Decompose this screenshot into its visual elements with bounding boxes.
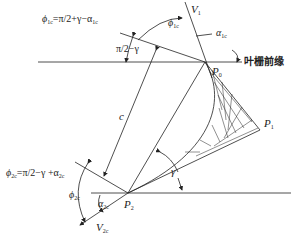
p0-label: P0: [212, 66, 222, 78]
phi2c-formula: ϕ2c=π/2−γ +α2c: [6, 168, 64, 179]
alpha1c-arc: [232, 50, 238, 62]
diagram-lines: [0, 0, 291, 239]
p1-label: P1: [264, 118, 274, 130]
phi1c-label: ϕ1c: [168, 18, 179, 29]
pi2-minus-gamma-label: π/2−γ: [116, 44, 139, 54]
normal-line-bottom: [75, 162, 128, 193]
chord-line: [128, 62, 205, 193]
blade-outer-envelope: [128, 62, 260, 193]
phi1c-formula: ϕ1c=π/2+γ−α1c: [42, 14, 98, 25]
gamma-label: γ: [171, 166, 175, 177]
v2c-label: V2c: [96, 222, 108, 234]
alpha1c-label: α1c: [216, 28, 227, 39]
chord-c-label: c: [119, 111, 124, 122]
phi2c-label: ϕ2c: [69, 190, 80, 201]
chord-dimension-c: [104, 50, 156, 176]
alpha2c-label: α2c: [98, 199, 109, 210]
v1-label: V1: [191, 4, 201, 16]
p2-label: P2: [124, 199, 134, 211]
alpha1c-leader: [196, 34, 212, 36]
cascade-leading-edge-label: 叶栅前缘: [244, 57, 284, 67]
gamma-arrow: [178, 178, 182, 190]
blade-cascade-diagram: ϕ1c=π/2+γ−α1c ϕ1c π/2−γ V1 α1c 叶栅前缘 P0 P…: [0, 0, 291, 239]
